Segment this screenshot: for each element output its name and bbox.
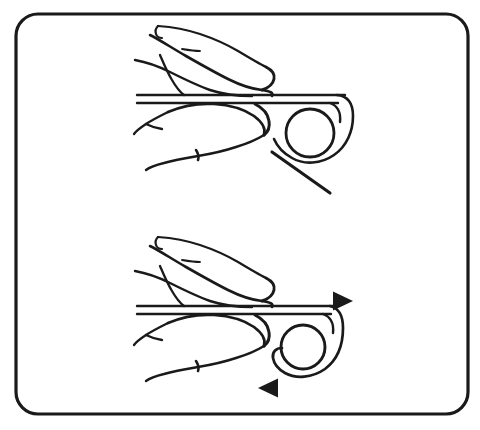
rounded-border (16, 14, 468, 414)
illustration-figure: Winding a wire loop by hand Two-step lin… (0, 0, 480, 430)
line-art-canvas (0, 0, 480, 430)
